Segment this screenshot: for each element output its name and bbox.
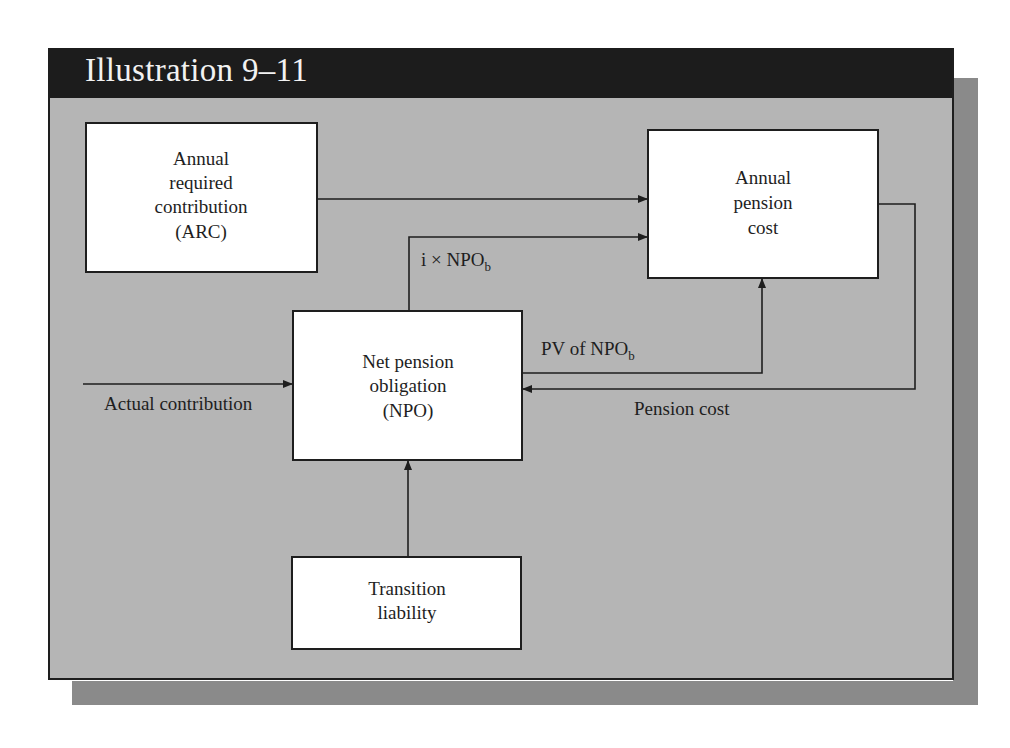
arc-box: Annual required contribution (ARC): [86, 123, 317, 272]
npo-box-line-2: obligation: [369, 375, 447, 396]
arc-box-line-4: (ARC): [175, 221, 227, 243]
interest-label-sub: b: [485, 259, 492, 274]
npo-box-line-3: (NPO): [383, 400, 434, 422]
pension-cost-label: Pension cost: [634, 398, 730, 419]
transition-box-line-1: Transition: [368, 578, 446, 599]
arc-box-line-2: required: [169, 172, 233, 193]
transition-box-line-2: liability: [377, 602, 437, 623]
interest-label: i × NPOb: [421, 249, 491, 274]
pv-label: PV of NPOb: [541, 338, 635, 363]
annual-pension-cost-box: Annual pension cost: [648, 130, 878, 278]
interest-label-main: i × NPO: [421, 249, 485, 270]
apc-box-line-3: cost: [748, 217, 779, 238]
flow-diagram: Annual required contribution (ARC) Annua…: [0, 0, 1010, 748]
npo-box-line-1: Net pension: [362, 351, 454, 372]
apc-box-line-2: pension: [733, 192, 793, 213]
arc-box-line-3: contribution: [155, 196, 248, 217]
transition-liability-box: Transition liability: [292, 557, 521, 649]
arc-box-line-1: Annual: [173, 148, 229, 169]
npo-box: Net pension obligation (NPO): [293, 311, 522, 460]
pv-label-main: PV of NPO: [541, 338, 628, 359]
actual-contribution-label: Actual contribution: [104, 393, 253, 414]
apc-box-line-1: Annual: [735, 167, 791, 188]
pv-label-sub: b: [628, 348, 635, 363]
